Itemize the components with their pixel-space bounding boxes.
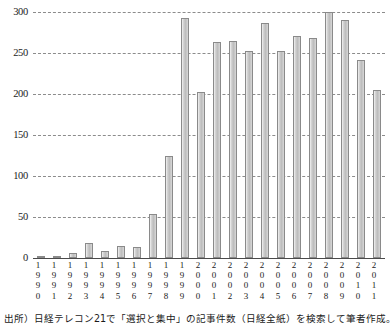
x-tick-digit: 8 bbox=[319, 291, 333, 301]
x-tick-label-2007: 2007 bbox=[303, 260, 317, 301]
bar-2006 bbox=[293, 36, 301, 258]
bar-2000 bbox=[197, 92, 205, 258]
x-tick-digit: 2 bbox=[239, 260, 253, 270]
x-tick-digit: 9 bbox=[175, 291, 189, 301]
x-tick-digit: 9 bbox=[63, 270, 77, 280]
x-tick-digit: 2 bbox=[287, 260, 301, 270]
x-tick-digit: 9 bbox=[47, 270, 61, 280]
x-tick-digit: 0 bbox=[351, 291, 365, 301]
y-tick-label-200: 200 bbox=[0, 89, 28, 100]
axis-baseline bbox=[33, 258, 385, 259]
bar-2008 bbox=[325, 12, 333, 258]
bar-1995 bbox=[117, 246, 125, 258]
bar-1996 bbox=[133, 247, 141, 258]
x-tick-digit: 0 bbox=[303, 280, 317, 290]
x-tick-label-2003: 2003 bbox=[239, 260, 253, 301]
x-tick-digit: 9 bbox=[95, 270, 109, 280]
x-tick-digit: 1 bbox=[127, 260, 141, 270]
x-tick-label-1999: 1999 bbox=[175, 260, 189, 301]
bar-2010 bbox=[357, 60, 365, 258]
x-tick-digit: 9 bbox=[47, 280, 61, 290]
x-tick-digit: 9 bbox=[31, 270, 45, 280]
x-tick-digit: 2 bbox=[271, 260, 285, 270]
bar-2003 bbox=[245, 51, 253, 258]
x-tick-digit: 0 bbox=[191, 291, 205, 301]
x-tick-digit: 2 bbox=[319, 260, 333, 270]
x-tick-digit: 2 bbox=[223, 260, 237, 270]
x-tick-digit: 0 bbox=[351, 270, 365, 280]
bar-2011 bbox=[373, 90, 381, 258]
x-tick-digit: 2 bbox=[335, 260, 349, 270]
x-tick-digit: 1 bbox=[367, 280, 381, 290]
x-tick-digit: 4 bbox=[255, 291, 269, 301]
y-tick-label-250: 250 bbox=[0, 48, 28, 59]
x-tick-digit: 1 bbox=[367, 291, 381, 301]
x-tick-label-2008: 2008 bbox=[319, 260, 333, 301]
x-tick-label-1995: 1995 bbox=[111, 260, 125, 301]
x-tick-digit: 9 bbox=[175, 280, 189, 290]
x-tick-digit: 1 bbox=[159, 260, 173, 270]
x-tick-digit: 1 bbox=[143, 260, 157, 270]
x-tick-digit: 2 bbox=[303, 260, 317, 270]
x-tick-digit: 0 bbox=[335, 270, 349, 280]
x-axis-labels: 1990199119921993199419951996199719981999… bbox=[33, 260, 385, 306]
x-tick-digit: 0 bbox=[239, 280, 253, 290]
x-tick-digit: 7 bbox=[143, 291, 157, 301]
bar-series bbox=[33, 12, 385, 258]
x-tick-digit: 8 bbox=[159, 291, 173, 301]
y-tick-label-50: 50 bbox=[0, 212, 28, 223]
x-tick-label-2006: 2006 bbox=[287, 260, 301, 301]
x-tick-digit: 1 bbox=[47, 260, 61, 270]
y-tick-label-100: 100 bbox=[0, 171, 28, 182]
y-tick-label-150: 150 bbox=[0, 130, 28, 141]
x-tick-label-1990: 1990 bbox=[31, 260, 45, 301]
x-tick-digit: 1 bbox=[63, 260, 77, 270]
x-tick-digit: 0 bbox=[319, 280, 333, 290]
x-tick-digit: 1 bbox=[95, 260, 109, 270]
x-tick-digit: 0 bbox=[367, 270, 381, 280]
x-tick-digit: 9 bbox=[31, 280, 45, 290]
x-tick-label-2001: 2001 bbox=[207, 260, 221, 301]
bar-1999 bbox=[181, 18, 189, 258]
x-tick-label-2004: 2004 bbox=[255, 260, 269, 301]
x-tick-digit: 9 bbox=[111, 270, 125, 280]
x-tick-label-2010: 2010 bbox=[351, 260, 365, 301]
source-note: 出所）日経テレコン21で「選択と集中」の記事件数（日経全紙）を検索して筆者作成。 bbox=[4, 313, 389, 325]
x-tick-label-2002: 2002 bbox=[223, 260, 237, 301]
x-tick-digit: 4 bbox=[95, 291, 109, 301]
x-tick-digit: 5 bbox=[111, 291, 125, 301]
x-tick-digit: 9 bbox=[79, 270, 93, 280]
x-tick-digit: 2 bbox=[367, 260, 381, 270]
x-tick-digit: 0 bbox=[223, 280, 237, 290]
bar-1998 bbox=[165, 156, 173, 258]
x-tick-digit: 9 bbox=[143, 270, 157, 280]
x-tick-label-2009: 2009 bbox=[335, 260, 349, 301]
x-tick-digit: 0 bbox=[239, 270, 253, 280]
bar-2001 bbox=[213, 42, 221, 258]
y-axis-labels: 050100150200250300 bbox=[0, 12, 30, 258]
x-tick-label-1996: 1996 bbox=[127, 260, 141, 301]
x-tick-digit: 9 bbox=[79, 280, 93, 290]
x-tick-label-1993: 1993 bbox=[79, 260, 93, 301]
bar-2002 bbox=[229, 41, 237, 258]
bar-2004 bbox=[261, 23, 269, 258]
x-tick-digit: 1 bbox=[111, 260, 125, 270]
x-tick-digit: 0 bbox=[191, 280, 205, 290]
chart-figure: 050100150200250300 199019911992199319941… bbox=[0, 0, 391, 328]
x-tick-digit: 0 bbox=[255, 270, 269, 280]
x-tick-digit: 1 bbox=[207, 291, 221, 301]
x-tick-digit: 0 bbox=[271, 270, 285, 280]
x-tick-digit: 9 bbox=[111, 280, 125, 290]
bar-1990 bbox=[37, 256, 45, 258]
x-tick-digit: 0 bbox=[255, 280, 269, 290]
x-tick-label-1998: 1998 bbox=[159, 260, 173, 301]
x-tick-digit: 2 bbox=[191, 260, 205, 270]
x-tick-digit: 0 bbox=[31, 291, 45, 301]
x-tick-digit: 0 bbox=[287, 270, 301, 280]
x-tick-digit: 6 bbox=[287, 291, 301, 301]
x-tick-digit: 0 bbox=[271, 280, 285, 290]
bar-2005 bbox=[277, 51, 285, 258]
x-tick-label-1994: 1994 bbox=[95, 260, 109, 301]
x-tick-digit: 2 bbox=[255, 260, 269, 270]
bar-2009 bbox=[341, 20, 349, 258]
